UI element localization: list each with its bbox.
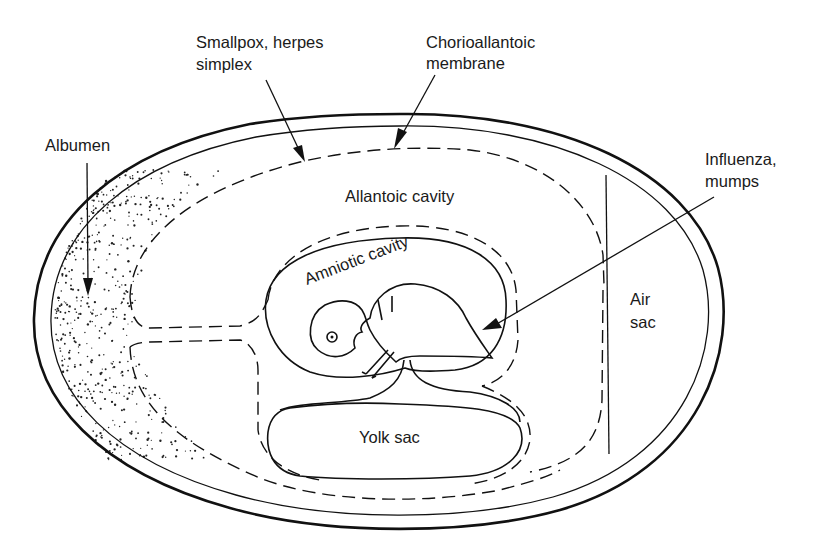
label-influenza-l2: mumps: [705, 172, 759, 190]
label-amniotic-cavity: Amniotic cavity: [302, 231, 412, 288]
label-smallpox-l2: simplex: [196, 55, 253, 73]
label-influenza-l1: Influenza,: [705, 150, 777, 168]
yolk-stalk-right: [410, 360, 520, 422]
embryo: [310, 284, 492, 362]
smallpox-arrowhead: [293, 145, 305, 162]
label-chorio-l2: membrane: [426, 54, 505, 72]
allantois-stalk-upper: [130, 297, 268, 328]
label-smallpox-l1: Smallpox, herpes: [196, 33, 323, 51]
egg-diagram: Smallpox, herpes simplex Chorioallantoic…: [0, 0, 836, 560]
yolk-stalk: [280, 360, 404, 410]
chorio-arrowhead: [394, 128, 407, 149]
air-sac-boundary: [606, 175, 609, 454]
label-air-l1: Air: [630, 290, 651, 308]
label-yolk-sac: Yolk sac: [359, 428, 420, 446]
shell-membrane: [51, 126, 709, 515]
label-chorio-l1: Chorioallantoic: [426, 33, 535, 51]
chorioallantoic-membrane-lower: [130, 347, 560, 499]
albumen-stipple: [54, 169, 219, 460]
chorioallantoic-membrane-right: [530, 290, 603, 472]
albumen-arrowhead: [83, 278, 93, 296]
label-allantoic-cavity: Allantoic cavity: [345, 187, 455, 205]
chorioallantoic-membrane-upper: [130, 148, 604, 297]
label-air-l2: sac: [630, 313, 656, 331]
influenza-arrowhead: [482, 318, 502, 330]
label-albumen: Albumen: [45, 136, 110, 154]
embryo-limb: [366, 296, 394, 378]
